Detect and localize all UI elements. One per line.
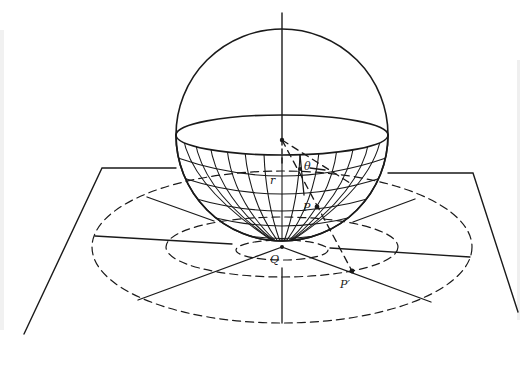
inner-circle <box>236 240 328 260</box>
label-q: Q <box>270 253 279 266</box>
label-r: r <box>270 174 276 187</box>
point-p-prime <box>350 269 355 274</box>
center-point <box>280 138 284 142</box>
point-p <box>315 205 320 210</box>
label-theta: θ <box>304 160 311 173</box>
projection-diagram: θ r P P′ Q <box>0 0 520 366</box>
label-p: P <box>302 201 311 214</box>
point-theta <box>298 167 302 171</box>
point-q <box>280 245 284 249</box>
points <box>280 138 355 274</box>
label-p-prime: P′ <box>339 278 350 291</box>
